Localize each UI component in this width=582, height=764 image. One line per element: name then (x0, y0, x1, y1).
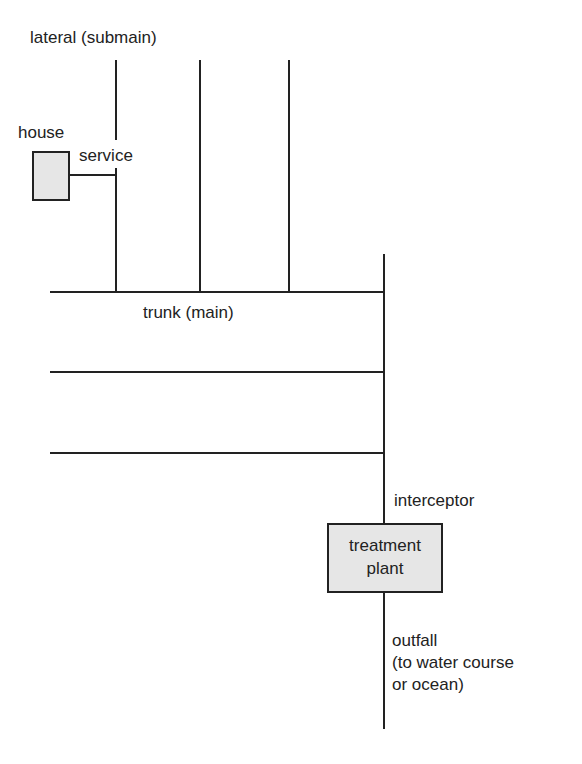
outfall-destination-label: (to water course (392, 652, 514, 673)
service-line (69, 174, 116, 176)
lateral-line-1-lower (115, 168, 117, 292)
lateral-label: lateral (submain) (30, 27, 157, 48)
treatment-plant-box: treatment plant (327, 523, 443, 593)
house-label: house (18, 122, 64, 143)
lateral-line-1-upper (115, 60, 117, 140)
outfall-destination-label-2: or ocean) (392, 674, 464, 695)
outfall-label: outfall (392, 630, 437, 651)
interceptor-line (383, 254, 385, 524)
interceptor-label: interceptor (394, 490, 474, 511)
outfall-line (383, 592, 385, 729)
lateral-line-3 (288, 60, 290, 292)
lateral-line-2 (199, 60, 201, 292)
trunk-line-3 (50, 452, 385, 454)
trunk-line-1 (50, 291, 385, 293)
plant-label-line-2: plant (329, 557, 441, 580)
house-box (32, 151, 70, 201)
plant-label-line-1: treatment (329, 534, 441, 557)
trunk-line-2 (50, 371, 385, 373)
service-label: service (79, 145, 133, 166)
trunk-label: trunk (main) (143, 302, 234, 323)
